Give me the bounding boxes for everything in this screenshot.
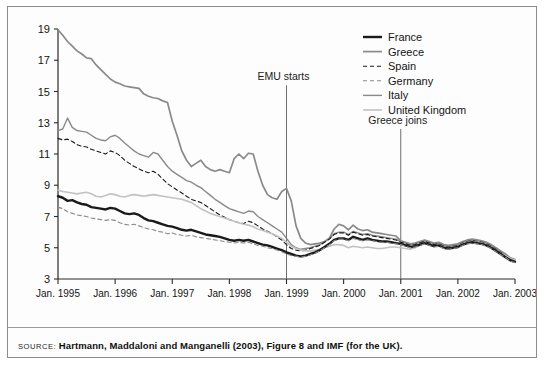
line-chart: 35791113151719Jan. 1995Jan. 1996Jan. 199… <box>8 7 536 319</box>
source-note: SOURCE: Hartmann, Maddaloni and Manganel… <box>8 327 536 357</box>
source-citation: Hartmann, Maddaloni and Manganelli (2003… <box>59 340 403 351</box>
y-tick-label: 7 <box>44 211 50 223</box>
legend-label-italy: Italy <box>388 89 409 101</box>
figure-frame: 35791113151719Jan. 1995Jan. 1996Jan. 199… <box>7 6 537 358</box>
x-tick-label: Jan. 2002 <box>436 288 480 299</box>
x-tick-label: Jan. 2003 <box>493 288 536 299</box>
y-tick-label: 3 <box>44 273 50 285</box>
y-tick-label: 19 <box>38 23 50 35</box>
x-tick-label: Jan. 1996 <box>93 288 137 299</box>
x-tick-label: Jan. 2001 <box>379 288 423 299</box>
x-tick-label: Jan. 1998 <box>207 288 251 299</box>
legend-label-france: France <box>388 31 422 43</box>
legend-label-greece: Greece <box>388 46 424 58</box>
y-tick-label: 15 <box>38 86 50 98</box>
y-tick-label: 9 <box>44 179 50 191</box>
annotation-label-emu-starts: EMU starts <box>258 70 310 82</box>
source-label: SOURCE: <box>18 342 56 351</box>
source-line: SOURCE: Hartmann, Maddaloni and Manganel… <box>18 340 402 351</box>
chart-plot-area: 35791113151719Jan. 1995Jan. 1996Jan. 199… <box>8 7 536 319</box>
y-tick-label: 11 <box>39 148 50 160</box>
x-tick-label: Jan. 2000 <box>322 288 366 299</box>
x-tick-label: Jan. 1995 <box>36 288 80 299</box>
x-tick-label: Jan. 1997 <box>150 288 194 299</box>
legend-label-united-kingdom: United Kingdom <box>388 104 466 116</box>
y-tick-label: 5 <box>44 242 50 254</box>
y-tick-label: 17 <box>38 54 50 66</box>
x-tick-label: Jan. 1999 <box>265 288 309 299</box>
legend-label-spain: Spain <box>388 60 416 72</box>
y-tick-label: 13 <box>38 117 50 129</box>
legend-label-germany: Germany <box>388 75 434 87</box>
